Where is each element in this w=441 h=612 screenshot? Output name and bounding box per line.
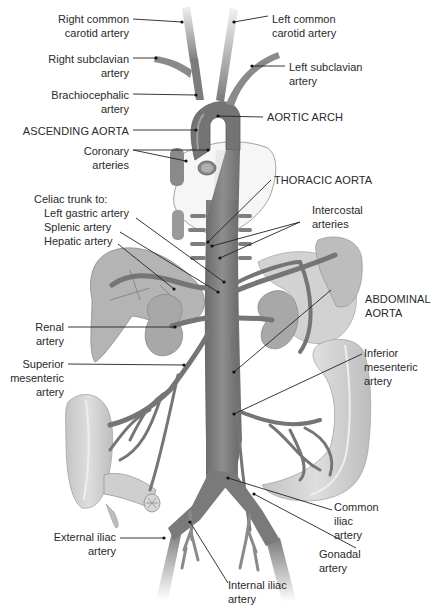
label-intercostal: Intercostal arteries bbox=[312, 203, 363, 231]
label-hepatic: Hepatic artery bbox=[44, 234, 112, 248]
label-thoracic-aorta: THORACIC AORTA bbox=[274, 173, 372, 187]
left-subclavian bbox=[226, 52, 280, 106]
label-inferior-mesenteric: Inferior mesenteric artery bbox=[364, 346, 418, 388]
right-subclavian bbox=[154, 56, 192, 78]
label-brachiocephalic: Brachiocephalic artery bbox=[51, 88, 129, 116]
label-right-subclavian: Right subclavian artery bbox=[48, 52, 129, 80]
label-common-iliac: Common iliac artery bbox=[334, 500, 379, 542]
label-celiac-trunk: Celiac trunk to: bbox=[34, 192, 107, 206]
label-right-common-carotid: Right common carotid artery bbox=[58, 12, 129, 40]
external-iliac-right bbox=[156, 530, 182, 600]
brachiocephalic-trunk bbox=[190, 58, 204, 100]
label-aortic-arch: AORTIC ARCH bbox=[267, 110, 343, 124]
label-gonadal: Gonadal artery bbox=[319, 547, 361, 575]
label-renal: Renal artery bbox=[35, 320, 64, 348]
label-superior-mesenteric: Superior mesenteric artery bbox=[10, 357, 64, 399]
label-splenic: Splenic artery bbox=[44, 220, 111, 234]
inferior-mesenteric-artery bbox=[236, 410, 320, 424]
label-left-gastric: Left gastric artery bbox=[44, 206, 129, 220]
label-ascending-aorta: ASCENDING AORTA bbox=[23, 124, 129, 138]
appendix bbox=[106, 504, 118, 528]
label-internal-iliac: Internal iliac artery bbox=[228, 578, 287, 606]
label-coronary: Coronary arteries bbox=[84, 144, 129, 172]
label-abdominal-aorta: ABDOMINAL AORTA bbox=[365, 292, 431, 320]
label-external-iliac: External iliac artery bbox=[54, 530, 116, 558]
label-left-subclavian: Left subclavian artery bbox=[289, 60, 362, 88]
label-left-common-carotid: Left common carotid artery bbox=[272, 12, 336, 40]
left-renal-artery bbox=[238, 318, 272, 320]
right-common-carotid bbox=[182, 6, 198, 62]
